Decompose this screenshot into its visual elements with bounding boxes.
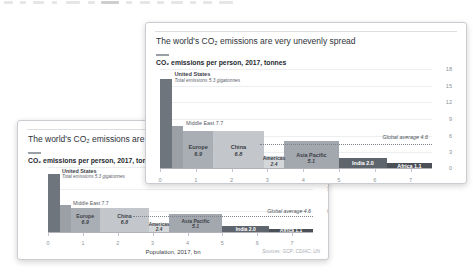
united-states-callout-back: United States Total emissions 5.3 gigato…: [62, 168, 125, 180]
chart-window-front-content: The world's CO₂ emissions are very uneve…: [146, 23, 466, 183]
x-tick-label-back: 7: [286, 240, 298, 246]
middle-east-callout-back: Middle East 7.7: [73, 200, 109, 206]
chart-title-front: The world's CO₂ emissions are very uneve…: [156, 36, 356, 46]
x-tick-front: [160, 169, 161, 172]
x-tick-label-front: 6: [369, 177, 381, 183]
gridline-front: [160, 86, 432, 87]
x-tick-label-back: 6: [251, 240, 263, 246]
x-tick-label-front: 7: [405, 177, 417, 183]
x-tick-front: [267, 169, 268, 172]
y-tick-label-front: 15: [436, 83, 452, 89]
global-average-line-back: [133, 216, 313, 217]
y-tick-label-front: 12: [436, 99, 452, 105]
bar-united-states[interactable]: [48, 174, 60, 233]
x-tick-back: [222, 233, 223, 236]
bar-label-china: China 6.8: [213, 144, 264, 157]
bar-label-india: India 2.0: [339, 160, 387, 166]
x-tick-front: [196, 169, 197, 172]
x-axis-line-front: [160, 168, 432, 169]
top-edge-artifact-strip: [0, 0, 473, 7]
x-tick-label-back: 4: [182, 240, 194, 246]
global-average-label-front: Global average 4.6: [382, 134, 428, 140]
x-tick-label-back: 5: [216, 240, 228, 246]
x-axis-line-back: [48, 232, 313, 233]
bar-label-europe: Europe 6.9: [71, 214, 100, 226]
x-tick-back: [48, 233, 49, 236]
bar-middle-east[interactable]: [172, 126, 184, 169]
y-tick-label-front: 6: [436, 133, 452, 139]
bar-label-asia-pacific: Asia Pacific 5.1: [169, 219, 223, 231]
x-tick-label-front: 5: [333, 177, 345, 183]
x-tick-label-front: 1: [190, 177, 202, 183]
chart-subtitle-front: CO₂ emissions per person, 2017, tonnes: [156, 59, 286, 66]
bar-middle-east[interactable]: [60, 205, 71, 233]
global-average-line-front: [260, 144, 432, 145]
x-tick-front: [339, 169, 340, 172]
global-average-label-back: Global average 4.6: [267, 208, 311, 214]
x-tick-back: [188, 233, 189, 236]
subtitle-accent-rule-front: [156, 54, 169, 56]
source-note-back: Sources: GCP; CDIAC; UN: [262, 249, 320, 254]
gridline-front: [160, 69, 432, 70]
middle-east-callout-front: Middle East 7.7: [186, 120, 223, 126]
x-tick-label-front: 2: [226, 177, 238, 183]
bar-united-states[interactable]: [160, 79, 172, 169]
y-tick-label-front: 3: [436, 149, 452, 155]
x-tick-front: [375, 169, 376, 172]
x-tick-front: [303, 169, 304, 172]
bar-label-europe: Europe 6.9: [183, 144, 213, 157]
plot-area-front: Europe 6.9 China 6.8 Americas 2.4 Asia P…: [160, 69, 432, 169]
x-tick-back: [257, 233, 258, 236]
chart-subtitle-back: CO₂ emissions per person, 2017, tonnes: [28, 157, 158, 164]
x-tick-label-back: 0: [42, 240, 54, 246]
x-tick-label-back: 3: [147, 240, 159, 246]
x-tick-back: [118, 233, 119, 236]
x-tick-label-back: 1: [77, 240, 89, 246]
subtitle-accent-rule-back: [28, 152, 41, 154]
y-tick-label-front: 18: [436, 66, 452, 72]
x-tick-back: [153, 233, 154, 236]
header-divider-front: [155, 31, 457, 32]
bar-label-asia-pacific: Asia Pacific 5.1: [284, 152, 339, 164]
united-states-callout-front: United States Total emissions 5.3 gigato…: [175, 71, 241, 83]
y-tick-label-back: 3: [316, 186, 329, 192]
y-tick-label-front: 9: [436, 116, 452, 122]
x-tick-back: [292, 233, 293, 236]
x-tick-front: [411, 169, 412, 172]
x-tick-front: [232, 169, 233, 172]
chart-window-front[interactable]: The world's CO₂ emissions are very uneve…: [145, 22, 467, 184]
x-tick-label-back: 2: [112, 240, 124, 246]
y-tick-label-front: 0: [436, 165, 452, 171]
x-tick-label-front: 0: [154, 177, 166, 183]
y-tick-label-back: 0: [316, 208, 329, 214]
x-tick-label-front: 3: [261, 177, 273, 183]
x-tick-label-front: 4: [297, 177, 309, 183]
x-tick-back: [83, 233, 84, 236]
gridline-back: [48, 189, 313, 190]
gridline-front: [160, 102, 432, 103]
